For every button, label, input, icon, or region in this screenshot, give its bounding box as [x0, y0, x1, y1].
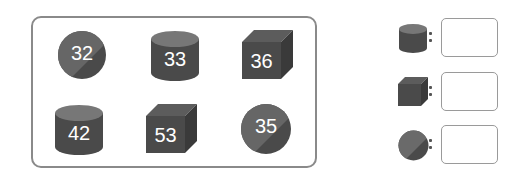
cylinder-icon [398, 23, 428, 58]
cylinder-shape: 33 [150, 30, 200, 82]
shape-value: 36 [242, 50, 281, 73]
cube-shape: 53 [146, 104, 198, 154]
legend-row-sphere [398, 125, 502, 165]
colon-separator [429, 137, 433, 151]
shape-value: 32 [57, 42, 107, 65]
cylinder-shape: 42 [54, 104, 104, 156]
shape-value: 53 [146, 124, 185, 147]
cylinder-answer-box[interactable] [441, 18, 498, 57]
shape-value: 33 [150, 48, 200, 71]
legend-row-cylinder [398, 18, 502, 58]
shape-value: 42 [54, 122, 104, 145]
sphere-answer-box[interactable] [441, 125, 498, 164]
cube-shape: 36 [242, 30, 294, 80]
cube-answer-box[interactable] [441, 72, 498, 111]
legend-row-cube [398, 72, 502, 112]
sphere-shape: 32 [57, 30, 107, 80]
cube-icon [398, 77, 429, 111]
shape-value: 35 [240, 115, 292, 138]
sphere-shape: 35 [240, 103, 292, 155]
sphere-icon [398, 130, 429, 165]
colon-separator [429, 30, 433, 44]
colon-separator [429, 84, 433, 98]
